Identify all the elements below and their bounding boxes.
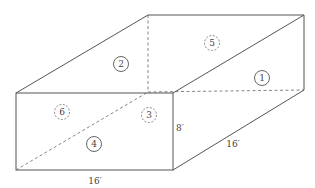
face-label-3: 3 [142, 108, 157, 123]
face-label-2: 2 [114, 57, 129, 72]
face-number: 6 [59, 107, 65, 117]
face-number: 2 [118, 59, 124, 69]
face-label-5: 5 [205, 36, 220, 51]
hidden-bottom-left-edge [16, 92, 148, 170]
width-dimension-label: 16′ [88, 176, 102, 186]
front-face-outline [16, 93, 173, 170]
face-number: 1 [259, 73, 265, 83]
visible-edges [16, 15, 304, 170]
face-number: 4 [91, 139, 97, 149]
depth-dimension-label: 16′ [226, 139, 240, 149]
top-left-edge [16, 15, 148, 93]
height-dimension-label: 8′ [176, 123, 184, 133]
face-label-4: 4 [87, 137, 102, 152]
face-label-6: 6 [55, 105, 70, 120]
box-diagram: 1 2 3 4 5 6 8′ 16′ 16′ [0, 0, 315, 188]
face-label-1: 1 [255, 71, 270, 86]
top-right-edge [173, 15, 304, 93]
face-number: 5 [209, 38, 215, 48]
face-number: 3 [146, 110, 152, 120]
right-bottom-edge [173, 90, 304, 170]
hidden-back-bottom-edge [148, 90, 304, 92]
